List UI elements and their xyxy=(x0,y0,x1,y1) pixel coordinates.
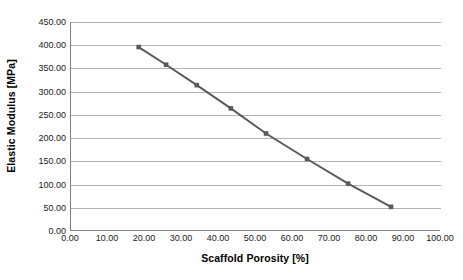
y-tick-label: 100.00 xyxy=(26,180,66,190)
x-axis-title: Scaffold Porosity [%] xyxy=(70,252,440,264)
y-tick-label: 450.00 xyxy=(26,17,66,27)
y-tick-label: 200.00 xyxy=(26,133,66,143)
data-point-marker xyxy=(305,157,310,162)
data-point-marker xyxy=(195,83,200,88)
y-tick-label: 250.00 xyxy=(26,110,66,120)
data-point-marker xyxy=(346,181,351,186)
data-point-marker xyxy=(264,131,269,136)
x-tick-label: 100.00 xyxy=(418,233,462,244)
series-line-chart xyxy=(71,22,441,231)
y-axis-title-label: Elastic Modulus [MPa] xyxy=(5,59,17,173)
data-point-marker xyxy=(389,205,394,210)
chart-container: Elastic Modulus [MPa] 0.0050.00100.00150… xyxy=(0,0,463,280)
x-axis-tick-labels: 0.0010.0020.0030.0040.0050.0060.0070.008… xyxy=(70,233,463,249)
plot-area xyxy=(70,22,440,231)
y-tick-label: 400.00 xyxy=(26,40,66,50)
y-tick-label: 150.00 xyxy=(26,156,66,166)
y-tick-label: 300.00 xyxy=(26,87,66,97)
y-tick-label: 50.00 xyxy=(26,203,66,213)
data-point-marker xyxy=(229,106,234,111)
y-axis-tick-labels: 0.0050.00100.00150.00200.00250.00300.003… xyxy=(22,0,66,240)
data-point-marker xyxy=(164,62,169,67)
y-tick-label: 350.00 xyxy=(26,63,66,73)
data-point-marker xyxy=(136,45,141,50)
series-line xyxy=(139,47,391,207)
y-axis-title: Elastic Modulus [MPa] xyxy=(0,0,22,232)
